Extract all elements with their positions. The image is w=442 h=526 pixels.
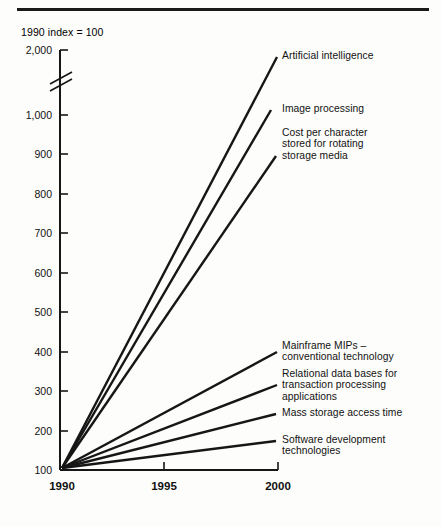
series-label-cost-per-character-storage: Cost per characterstored for rotatingsto… xyxy=(282,127,368,161)
series-label-mainframe-mips: Mainframe MIPs –conventional technology xyxy=(282,340,394,363)
x-axis-ticks xyxy=(164,462,278,470)
y-tick-label-300: 300 xyxy=(34,385,52,397)
series-label-image-processing: Image processing xyxy=(282,103,364,114)
y-tick-label-2000: 2,000 xyxy=(26,44,52,56)
series-line-artificial-intelligence xyxy=(62,57,277,468)
y-tick-label-100: 100 xyxy=(34,464,52,476)
y-tick-label-700: 700 xyxy=(34,227,52,239)
series-label-mass-storage-access-time: Mass storage access time xyxy=(282,407,402,418)
series-label-software-development: Software developmenttechnologies xyxy=(282,434,385,457)
y-tick-label-600: 600 xyxy=(34,267,52,279)
y-tick-label-900: 900 xyxy=(34,148,52,160)
y-tick-label-400: 400 xyxy=(34,346,52,358)
x-tick-label-2000: 2000 xyxy=(265,480,291,492)
x-tick-label-1995: 1995 xyxy=(151,480,177,492)
y-axis-ticks xyxy=(60,50,68,431)
chart-figure: 1990 index = 100 2,000 1,000 900 800 xyxy=(0,0,442,526)
series-label-artificial-intelligence: Artificial intelligence xyxy=(282,50,374,61)
series-label-relational-data-bases: Relational data bases fortransaction pro… xyxy=(282,368,397,402)
y-tick-label-200: 200 xyxy=(34,425,52,437)
series-line-image-processing xyxy=(62,110,271,468)
series-line-mainframe-mips xyxy=(62,352,277,468)
x-tick-label-1990: 1990 xyxy=(49,480,75,492)
y-tick-label-500: 500 xyxy=(34,306,52,318)
y-tick-label-1000: 1,000 xyxy=(26,109,52,121)
y-tick-label-800: 800 xyxy=(34,188,52,200)
